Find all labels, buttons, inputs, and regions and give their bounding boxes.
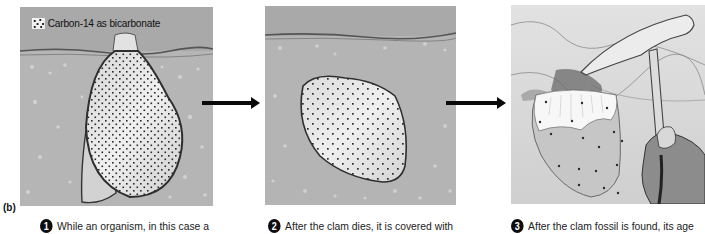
arrow-right-icon: [446, 98, 506, 108]
caption-step-3: 3 After the clam fossil is found, its ag…: [511, 218, 694, 234]
caption-text: After the clam dies, it is covered with: [285, 220, 453, 232]
fossil-hammer-illustration: [511, 5, 705, 204]
caption-step-1: 1 While an organism, in this case a: [40, 218, 209, 234]
step-number-badge: 1: [40, 219, 53, 233]
panel-living-clam: Carbon-14 as bicarbonate: [20, 7, 213, 206]
panel-fossil-found: [511, 5, 705, 204]
dotted-square-icon: [32, 18, 45, 29]
legend-label: Carbon-14 as bicarbonate: [48, 17, 161, 29]
buried-clam-illustration: [265, 6, 456, 205]
living-clam-illustration: [20, 7, 213, 206]
panel-buried-clam: [265, 6, 456, 205]
caption-step-2: 2 After the clam dies, it is covered wit…: [268, 218, 453, 234]
legend: Carbon-14 as bicarbonate: [32, 17, 160, 29]
caption-text: After the clam fossil is found, its age: [528, 220, 694, 232]
figure-label: (b): [3, 202, 16, 213]
step-number-badge: 2: [268, 219, 281, 233]
arrow-right-icon: [202, 98, 260, 108]
step-number-badge: 3: [511, 219, 524, 233]
caption-text: While an organism, in this case a: [57, 220, 209, 232]
